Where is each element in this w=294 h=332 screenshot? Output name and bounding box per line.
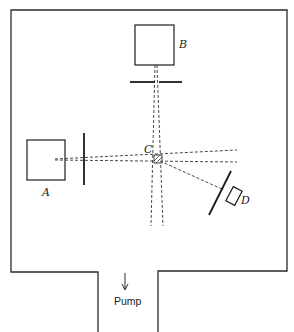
beam-to-detector xyxy=(160,161,224,190)
source-a-box xyxy=(27,140,65,180)
detector-d-box xyxy=(226,187,242,206)
apparatus-diagram: B A C D xyxy=(0,0,294,332)
detector-d: D xyxy=(226,187,250,207)
slit-d xyxy=(209,171,231,215)
pump-indicator: Pump xyxy=(114,273,142,307)
beam-b xyxy=(151,65,163,226)
label-d: D xyxy=(240,194,250,207)
source-b-box xyxy=(135,25,174,65)
source-a: A xyxy=(27,140,65,199)
source-b: B xyxy=(135,25,187,65)
pump-label: Pump xyxy=(114,295,142,307)
label-c: C xyxy=(144,143,153,156)
label-a: A xyxy=(41,186,50,199)
label-b: B xyxy=(178,38,187,51)
